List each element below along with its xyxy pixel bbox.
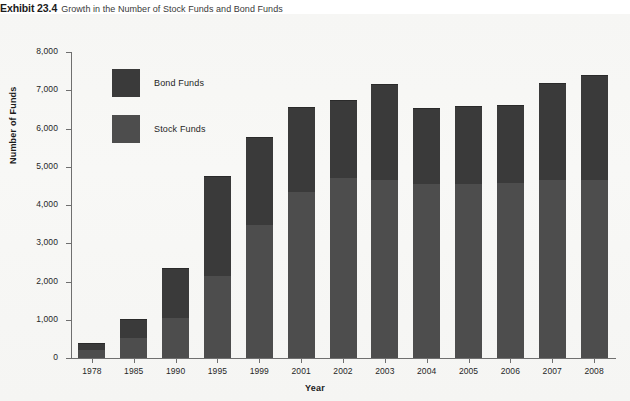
x-axis-label-2004: 2004 — [407, 366, 447, 376]
bar-1985[interactable] — [120, 319, 147, 358]
bar-segment-bond-2003 — [371, 84, 398, 180]
bar-segment-stock-2004 — [413, 184, 440, 358]
bar-2001[interactable] — [288, 107, 315, 358]
y-axis-tick-label: 1,000 — [36, 314, 58, 324]
x-axis-label-2005: 2005 — [449, 366, 489, 376]
bar-segment-bond-1995 — [204, 176, 231, 276]
bar-segment-bond-2005 — [455, 106, 482, 184]
y-axis-tick: 8,000 — [66, 52, 71, 53]
bar-segment-bond-1985 — [120, 319, 147, 338]
x-axis-label-2008: 2008 — [574, 366, 614, 376]
bar-2003[interactable] — [371, 84, 398, 358]
bar-segment-bond-1990 — [162, 268, 189, 318]
bar-segment-stock-1990 — [162, 318, 189, 358]
y-axis-tick: 6,000 — [66, 129, 71, 130]
bar-segment-stock-2005 — [455, 184, 482, 358]
bar-segment-bond-2007 — [539, 83, 566, 180]
x-axis-label-1985: 1985 — [114, 366, 154, 376]
x-axis-tick — [552, 358, 553, 363]
exhibit-caption-text: Growth in the Number of Stock Funds and … — [61, 4, 283, 14]
bar-segment-stock-2002 — [330, 178, 357, 358]
y-axis-tick: 4,000 — [66, 205, 71, 206]
legend-label-bond-funds: Bond Funds — [154, 78, 204, 88]
bar-segment-stock-1978 — [78, 350, 105, 358]
bar-2005[interactable] — [455, 106, 482, 358]
bar-segment-bond-2008 — [581, 75, 608, 180]
y-axis-tick: 5,000 — [66, 167, 71, 168]
bar-1990[interactable] — [162, 268, 189, 358]
bar-segment-bond-1978 — [78, 343, 105, 351]
bar-1995[interactable] — [204, 176, 231, 358]
x-axis-tick — [217, 358, 218, 363]
x-axis-label-2002: 2002 — [323, 366, 363, 376]
bar-1999[interactable] — [246, 137, 273, 358]
x-axis-tick — [134, 358, 135, 363]
bar-segment-stock-2001 — [288, 192, 315, 358]
exhibit-caption-label: Exhibit 23.4 — [0, 2, 57, 14]
x-axis-tick — [343, 358, 344, 363]
legend-label-stock-funds: Stock Funds — [154, 124, 206, 134]
x-axis-label-2001: 2001 — [281, 366, 321, 376]
chart-figure: Number of Funds Year 01,0002,0003,0004,0… — [0, 14, 630, 401]
bar-segment-stock-2007 — [539, 180, 566, 358]
x-axis-label-1990: 1990 — [156, 366, 196, 376]
legend-swatch-bond-icon — [112, 69, 140, 97]
bar-segment-bond-2002 — [330, 100, 357, 178]
x-axis-label-2007: 2007 — [532, 366, 572, 376]
y-axis-tick-label: 4,000 — [36, 199, 58, 209]
x-axis-tick — [510, 358, 511, 363]
x-axis-tick — [385, 358, 386, 363]
y-axis-tick-label: 0 — [53, 352, 58, 362]
y-axis-tick-label: 3,000 — [36, 237, 58, 247]
bar-segment-bond-2006 — [497, 105, 524, 183]
y-axis-title: Number of Funds — [8, 87, 18, 165]
x-axis-label-1978: 1978 — [72, 366, 112, 376]
bar-segment-bond-2001 — [288, 107, 315, 192]
x-axis-tick — [176, 358, 177, 363]
y-axis-tick: 2,000 — [66, 282, 71, 283]
y-axis-tick-label: 6,000 — [36, 123, 58, 133]
x-axis-tick — [427, 358, 428, 363]
x-axis-tick — [92, 358, 93, 363]
bar-segment-stock-1999 — [246, 225, 273, 358]
bar-segment-bond-2004 — [413, 108, 440, 185]
x-axis-label-2003: 2003 — [365, 366, 405, 376]
bar-2008[interactable] — [581, 75, 608, 358]
bar-2002[interactable] — [330, 100, 357, 358]
x-axis-tick — [594, 358, 595, 363]
x-axis-tick — [301, 358, 302, 363]
bar-segment-stock-2003 — [371, 180, 398, 358]
x-axis-label-1995: 1995 — [197, 366, 237, 376]
x-axis-tick — [259, 358, 260, 363]
y-axis-tick-label: 8,000 — [36, 46, 58, 56]
bar-segment-stock-1995 — [204, 276, 231, 358]
y-axis-tick: 3,000 — [66, 243, 71, 244]
x-axis-title: Year — [0, 383, 630, 393]
y-axis-tick: 1,000 — [66, 320, 71, 321]
bar-segment-stock-2006 — [497, 183, 524, 358]
x-axis-label-1999: 1999 — [239, 366, 279, 376]
bar-2006[interactable] — [497, 105, 524, 358]
x-axis-tick — [469, 358, 470, 363]
legend-swatch-stock-icon — [112, 115, 140, 143]
y-axis-tick-label: 2,000 — [36, 276, 58, 286]
x-axis-label-2006: 2006 — [490, 366, 530, 376]
y-axis-tick-label: 5,000 — [36, 161, 58, 171]
y-axis-tick-label: 7,000 — [36, 84, 58, 94]
exhibit-caption: Exhibit 23.4Growth in the Number of Stoc… — [0, 0, 630, 14]
y-axis-tick: 0 — [66, 358, 71, 359]
bar-segment-bond-1999 — [246, 137, 273, 225]
bar-2007[interactable] — [539, 83, 566, 358]
bar-1978[interactable] — [78, 343, 105, 358]
bar-segment-stock-1985 — [120, 338, 147, 358]
bar-2004[interactable] — [413, 108, 440, 358]
y-axis-tick: 7,000 — [66, 90, 71, 91]
bar-segment-stock-2008 — [581, 180, 608, 358]
plot-area: 01,0002,0003,0004,0005,0006,0007,0008,00… — [71, 52, 615, 358]
